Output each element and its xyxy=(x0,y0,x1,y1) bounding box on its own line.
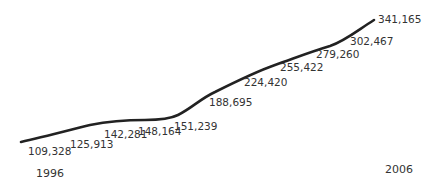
data-label-2002: 224,420 xyxy=(244,77,287,88)
data-label-2006: 341,165 xyxy=(378,14,421,25)
data-label-2001: 188,695 xyxy=(209,97,252,108)
data-label-2005: 302,467 xyxy=(350,36,393,47)
data-label-2003: 255,422 xyxy=(280,62,323,73)
x-axis-start-label: 1996 xyxy=(36,168,64,179)
data-label-1996: 109,328 xyxy=(28,146,71,157)
data-label-2004: 279,260 xyxy=(316,49,359,60)
line-chart xyxy=(0,0,428,185)
data-label-1997: 125,913 xyxy=(70,139,113,150)
x-axis-end-label: 2006 xyxy=(385,164,413,175)
data-label-2000: 151,239 xyxy=(174,121,217,132)
